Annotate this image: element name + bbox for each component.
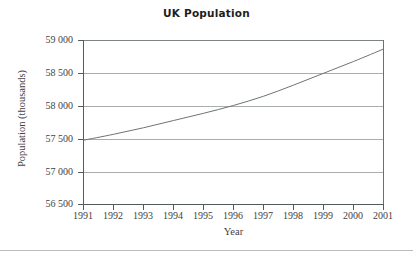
y-tick-57000 xyxy=(78,172,83,173)
plot-right-border xyxy=(383,40,384,205)
y-tick-58500 xyxy=(78,73,83,74)
chart-figure: UK Population 59 000 58 500 58 000 57 50… xyxy=(0,0,413,261)
x-axis-label-2001: 2001 xyxy=(363,210,403,221)
footer-divider xyxy=(0,250,413,251)
gridline-57000 xyxy=(83,172,384,173)
y-axis-label-57500: 57 500 xyxy=(3,134,73,144)
gridline-58000 xyxy=(83,106,384,107)
y-tick-57500 xyxy=(78,139,83,140)
y-axis-label-58500: 58 500 xyxy=(3,68,73,78)
y-axis-line xyxy=(83,40,84,205)
gridline-57500 xyxy=(83,139,384,140)
y-axis-label-58000: 58 000 xyxy=(3,101,73,111)
y-axis-label-57000: 57 000 xyxy=(3,167,73,177)
y-tick-59000 xyxy=(78,40,83,41)
gridline-58500 xyxy=(83,73,384,74)
y-axis-label-56500: 56 500 xyxy=(3,199,73,209)
y-tick-58000 xyxy=(78,106,83,107)
x-axis-title: Year xyxy=(83,226,384,237)
y-axis-title: Population (thousands) xyxy=(16,34,27,204)
y-axis-label-59000: 59 000 xyxy=(3,35,73,45)
gridline-59000 xyxy=(83,40,384,41)
population-line xyxy=(84,49,384,140)
chart-title: UK Population xyxy=(0,7,413,19)
